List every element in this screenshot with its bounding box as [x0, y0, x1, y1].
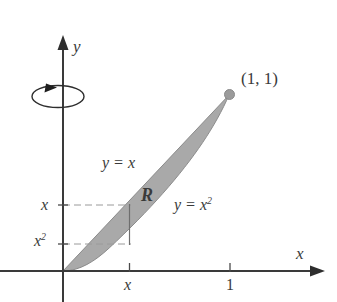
point-coordinate-label: (1, 1) — [241, 70, 278, 87]
revolution-arrowhead-icon — [45, 84, 58, 93]
math-figure: y x (1, 1) y = x y = x2 R x x2 x 1 — [0, 0, 337, 302]
curve-equation-label: y = x2 — [174, 196, 212, 213]
y-tick-label-x-squared: x2 — [34, 232, 46, 249]
curve-equation-exponent: 2 — [207, 195, 212, 206]
region-label-R: R — [141, 186, 153, 204]
x-tick-label-1: 1 — [226, 277, 234, 293]
revolution-arrow-ellipse — [32, 86, 84, 108]
y-axis-label: y — [73, 38, 81, 55]
line-equation-text: y = x — [102, 154, 135, 171]
x-tick-label-x: x — [124, 277, 131, 293]
line-equation-label: y = x — [102, 155, 135, 171]
curve-equation-text: y = x — [174, 196, 207, 213]
shaded-region-R — [63, 95, 229, 271]
y-tick-label-x: x — [41, 197, 48, 213]
diagram-canvas — [0, 0, 337, 302]
y-axis-arrowhead — [58, 35, 69, 50]
y-tick-label-x-squared-exponent: 2 — [41, 231, 46, 242]
point-1-1-dot — [225, 90, 235, 100]
x-axis-arrowhead — [310, 266, 325, 277]
x-axis-label: x — [296, 245, 304, 262]
